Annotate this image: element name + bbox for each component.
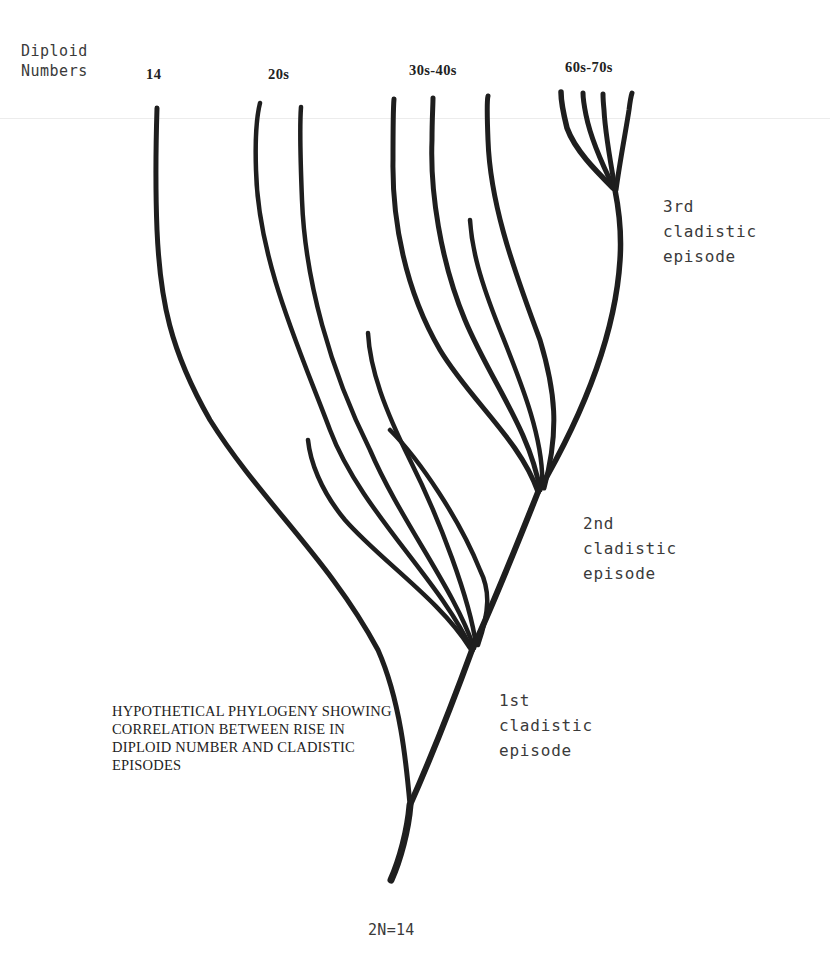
episode-label-3rd: 3rd cladistic episode [663, 194, 793, 269]
branch-trunk-to-node1 [410, 650, 472, 805]
figure-caption: HYPOTHETICAL PHYLOGENY SHOWING CORRELATI… [112, 702, 392, 774]
root-label: 2N=14 [368, 921, 415, 939]
episode-label-2nd: 2nd cladistic episode [583, 511, 713, 586]
branch-20s-a [256, 103, 472, 650]
episode-label-1st: 1st cladistic episode [499, 688, 629, 763]
branch-trunk-root [391, 805, 410, 880]
branch-20s-e [390, 430, 487, 645]
branch-30s-a [393, 99, 538, 492]
branch-60s-d [616, 93, 632, 190]
phylogeny-tree [0, 0, 830, 964]
branch-20s-b [300, 107, 474, 648]
